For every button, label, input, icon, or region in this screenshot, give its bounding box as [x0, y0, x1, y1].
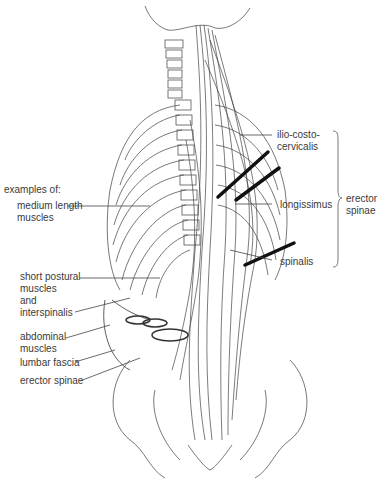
label-spinalis: spinalis: [280, 256, 313, 268]
anatomy-illustration: [0, 0, 388, 482]
label-longissimus: longissimus: [280, 199, 332, 211]
erector-spinae-muscles: [172, 25, 257, 440]
erector-spinae-bracket: [333, 131, 342, 267]
label-erector-spinae-left: erector spinae: [20, 375, 83, 387]
label-medium-length-muscles: medium length muscles: [17, 200, 83, 224]
skull-outline: [145, 6, 250, 30]
cervical-vertebrae: [165, 40, 183, 98]
label-short-postural-muscles: short postural muscles and interspinalis: [20, 271, 81, 319]
label-abdominal-muscles: abdominal muscles: [20, 331, 66, 355]
label-lumbar-fascia: lumbar fascia: [20, 357, 79, 369]
label-erector-spinae-group: erector spinae: [346, 193, 377, 217]
label-examples-heading: examples of:: [4, 184, 61, 196]
label-ilio-costo-cervicalis: ilio-costo- cervicalis: [277, 129, 320, 153]
leader-lines: [66, 135, 272, 381]
rib-cage: [107, 105, 287, 298]
